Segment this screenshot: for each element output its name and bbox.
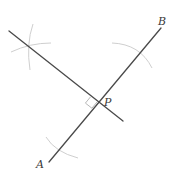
point-label-a: A: [35, 158, 44, 171]
construction-arc-lower-left: [46, 137, 78, 158]
point-label-p: P: [103, 96, 112, 109]
construction-arc-top-left-horizontal: [11, 43, 51, 52]
segment-ab: [49, 28, 161, 162]
point-label-b: B: [157, 15, 166, 28]
geometry-diagram: B P A: [0, 0, 177, 171]
